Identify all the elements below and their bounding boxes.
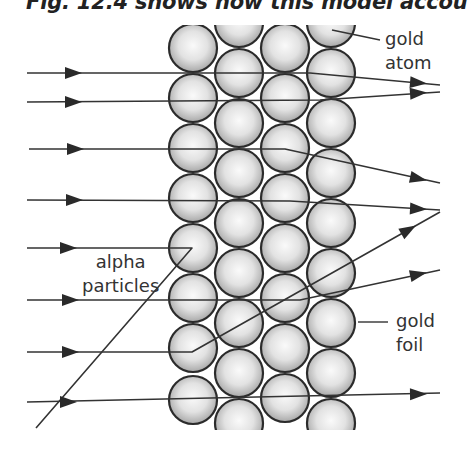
- gold-atom: [215, 249, 263, 297]
- gold-atom: [261, 324, 309, 372]
- arrowhead-icon: [398, 220, 419, 239]
- gold-atom: [261, 174, 309, 222]
- arrowhead-icon: [410, 87, 428, 100]
- gold-atom: [215, 399, 263, 447]
- gold-atom: [261, 124, 309, 172]
- alpha-particles-label-line1: alpha: [82, 250, 159, 274]
- arrowhead-icon: [410, 76, 428, 89]
- gold-atom: [261, 224, 309, 272]
- gold-atom: [215, 349, 263, 397]
- gold-atom: [215, 99, 263, 147]
- gold-foil-label-line2: foil: [396, 333, 435, 357]
- gold-atom: [261, 74, 309, 122]
- gold-atom: [215, 0, 263, 47]
- gold-atom: [307, 199, 355, 247]
- gold-atom: [307, 349, 355, 397]
- gold-foil-label: gold foil: [396, 309, 435, 357]
- arrowhead-icon: [67, 143, 84, 155]
- gold-atom: [169, 324, 217, 372]
- gold-atom: [169, 174, 217, 222]
- arrowhead-icon: [409, 267, 428, 282]
- gold-atom-label: gold atom: [385, 27, 432, 75]
- arrowhead-icon: [60, 396, 77, 408]
- gold-atom: [169, 376, 217, 424]
- gold-atom: [307, 399, 355, 447]
- gold-atom-label-line1: gold: [385, 27, 432, 51]
- gold-atom: [215, 149, 263, 197]
- arrowhead-icon: [65, 67, 82, 79]
- gold-atom: [261, 24, 309, 72]
- arrowhead-icon: [65, 96, 82, 108]
- gold-atom: [169, 24, 217, 72]
- gold-atom: [215, 299, 263, 347]
- arrowhead-icon: [60, 242, 77, 254]
- gold-atom: [261, 274, 309, 322]
- gold-foil-label-line1: gold: [396, 309, 435, 333]
- gold-atom: [169, 74, 217, 122]
- arrowhead-icon: [410, 202, 428, 215]
- arrowhead-icon: [62, 346, 79, 358]
- gold-atom: [261, 374, 309, 422]
- gold-atom: [307, 0, 355, 47]
- arrowhead-icon: [410, 388, 427, 400]
- gold-atom: [169, 274, 217, 322]
- gold-foil: [169, 0, 355, 447]
- gold-atom: [307, 99, 355, 147]
- arrowhead-icon: [66, 194, 83, 206]
- gold-atom: [169, 124, 217, 172]
- arrowhead-icon: [62, 294, 79, 306]
- gold-atom-label-line2: atom: [385, 51, 432, 75]
- alpha-particles-label-line2: particles: [82, 274, 159, 298]
- alpha-particles-label: alpha particles: [82, 250, 159, 298]
- arrowhead-icon: [409, 171, 428, 186]
- gold-atom: [307, 299, 355, 347]
- gold-atom: [215, 199, 263, 247]
